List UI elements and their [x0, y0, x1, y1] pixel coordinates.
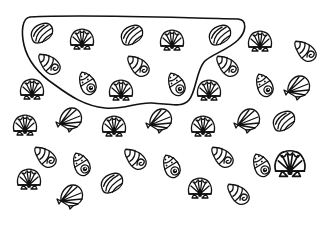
snail-upright-shell-icon — [253, 71, 275, 99]
clam-shell-icon — [119, 23, 145, 46]
scallop-shell-icon — [13, 115, 36, 135]
snail-shell-icon — [212, 54, 241, 78]
snail-upright-shell-icon — [250, 151, 272, 179]
scallop-shell-icon — [197, 80, 220, 100]
fan-shell-icon — [234, 109, 260, 133]
snail-shell-icon — [34, 52, 63, 76]
fan-shell-icon — [57, 185, 83, 209]
snail-upright-shell-icon — [165, 70, 187, 98]
fan-shell-icon — [146, 109, 172, 133]
scallop-shell-icon — [188, 178, 211, 198]
scallop-large-shell-icon — [275, 151, 305, 177]
scallop-shell-icon — [70, 29, 93, 49]
snail-shell-icon — [223, 182, 252, 206]
scallop-shell-icon — [248, 31, 271, 51]
snail-upright-shell-icon — [160, 152, 182, 180]
snail-shell-icon — [120, 147, 149, 171]
scallop-shell-icon — [102, 116, 125, 136]
scallop-shell-icon — [191, 116, 214, 136]
scallop-shell-icon — [20, 79, 43, 99]
scallop-shell-icon — [160, 30, 183, 50]
fan-shell-icon — [56, 108, 82, 132]
snail-shell-icon — [207, 145, 236, 169]
scallop-shell-icon — [109, 80, 132, 100]
snail-shell-icon — [123, 54, 152, 78]
clam-shell-icon — [271, 109, 297, 132]
snail-shell-icon — [290, 39, 319, 63]
scallop-shell-icon — [17, 169, 40, 189]
snail-upright-shell-icon — [70, 150, 92, 178]
fan-shell-icon — [284, 76, 310, 100]
seashell-drawing: Line drawing of seashells scattered on a… — [0, 0, 330, 226]
shell-group — [13, 21, 319, 209]
snail-shell-icon — [30, 145, 59, 169]
clam-shell-icon — [99, 171, 125, 194]
clam-shell-icon — [29, 21, 55, 44]
clam-shell-icon — [207, 23, 233, 46]
snail-upright-shell-icon — [76, 69, 98, 97]
shell-illustration — [0, 0, 330, 226]
